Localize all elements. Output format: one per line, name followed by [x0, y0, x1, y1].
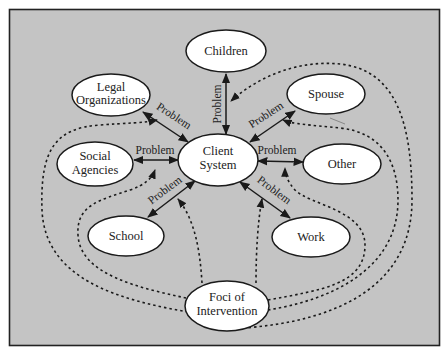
node-foci-label-1: Foci of [209, 290, 246, 304]
node-school[interactable]: School [88, 216, 164, 256]
node-legal-label-2: Organizations [76, 93, 146, 107]
node-spouse-label: Spouse [308, 87, 345, 101]
node-work-label: Work [297, 230, 325, 244]
node-social-label-1: Social [79, 149, 111, 163]
edge-label-other: Problem [258, 144, 297, 156]
node-client-system[interactable]: Client System [178, 134, 258, 186]
edge-label-social: Problem [136, 144, 175, 156]
edge-label-children: Problem [211, 84, 223, 123]
edge-other [258, 161, 303, 162]
node-foci-of-intervention[interactable]: Foci of Intervention [185, 281, 269, 331]
node-school-label: School [109, 229, 144, 243]
node-client-label-1: Client [203, 144, 234, 158]
node-legal-label-1: Legal [97, 80, 126, 94]
node-social-agencies[interactable]: Social Agencies [57, 142, 133, 186]
intervention-diagram: Problem Problem Problem Problem Problem … [0, 0, 448, 353]
node-client-label-2: System [200, 158, 237, 172]
node-foci-label-2: Intervention [196, 304, 258, 318]
node-work[interactable]: Work [272, 217, 350, 257]
node-children[interactable]: Children [186, 30, 266, 72]
node-other[interactable]: Other [303, 144, 381, 184]
node-other-label: Other [328, 157, 357, 171]
node-spouse[interactable]: Spouse [287, 74, 365, 114]
node-social-label-2: Agencies [72, 163, 119, 177]
node-legal-organizations[interactable]: Legal Organizations [72, 74, 150, 116]
node-children-label: Children [204, 44, 248, 58]
